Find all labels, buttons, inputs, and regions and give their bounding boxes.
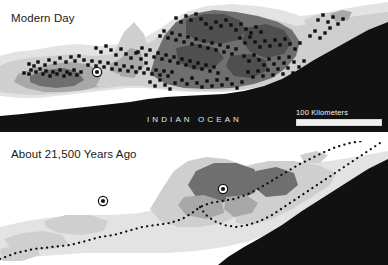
site-marker — [44, 69, 47, 72]
site-marker — [192, 65, 195, 68]
site-marker — [27, 72, 30, 75]
site-marker — [82, 58, 85, 61]
site-marker — [200, 85, 203, 88]
site-marker — [215, 78, 218, 81]
site-marker — [174, 16, 177, 19]
site-marker — [180, 57, 183, 60]
site-marker — [253, 40, 256, 43]
site-marker — [292, 60, 295, 63]
site-marker — [189, 18, 192, 21]
site-marker — [174, 38, 177, 41]
site-marker — [153, 84, 156, 87]
site-marker — [262, 63, 265, 66]
site-marker — [64, 60, 67, 63]
site-marker — [202, 39, 205, 42]
site-marker — [69, 55, 72, 58]
site-marker — [326, 20, 329, 23]
site-marker — [239, 22, 242, 25]
site-marker — [170, 31, 173, 34]
site-marker — [272, 62, 275, 65]
site-marker — [341, 17, 344, 20]
site-marker — [152, 55, 155, 58]
site-marker — [154, 68, 157, 71]
site-marker — [163, 83, 166, 86]
site-marker — [47, 58, 50, 61]
site-marker — [323, 31, 326, 34]
site-marker — [138, 66, 141, 69]
site-marker — [190, 42, 193, 45]
site-marker — [185, 82, 188, 85]
site-marker — [208, 69, 211, 72]
cave-marker-dot — [101, 199, 105, 203]
site-marker — [139, 57, 142, 60]
site-marker — [186, 35, 189, 38]
site-marker — [261, 74, 264, 77]
site-marker — [230, 82, 233, 85]
site-marker — [293, 47, 296, 50]
site-marker — [162, 69, 165, 72]
site-marker — [34, 70, 37, 73]
site-marker — [119, 47, 122, 50]
site-marker — [110, 67, 113, 70]
site-marker — [238, 36, 241, 39]
map-panel-ancient: About 21,500 Years Ago 100 Kilometers — [0, 141, 388, 265]
site-marker — [209, 26, 212, 29]
site-marker — [224, 18, 227, 21]
site-marker — [318, 36, 321, 39]
site-marker — [281, 72, 284, 75]
panel-title-modern: Modern Day — [11, 12, 75, 24]
site-marker — [166, 74, 169, 77]
site-marker — [316, 18, 319, 21]
site-marker — [234, 28, 237, 31]
site-marker — [32, 64, 35, 67]
site-marker — [150, 72, 153, 75]
site-marker — [102, 65, 105, 68]
site-marker — [106, 61, 109, 64]
site-marker — [254, 25, 257, 28]
site-marker — [72, 68, 75, 71]
site-marker — [301, 70, 304, 73]
site-marker — [178, 33, 181, 36]
site-marker — [263, 39, 266, 42]
site-marker — [184, 63, 187, 66]
site-marker — [158, 73, 161, 76]
site-marker — [216, 71, 219, 74]
site-marker — [162, 29, 165, 32]
site-marker — [210, 41, 213, 44]
site-marker — [168, 59, 171, 62]
site-marker — [184, 14, 187, 17]
site-marker — [58, 68, 61, 71]
site-marker — [176, 61, 179, 64]
site-marker — [235, 86, 238, 89]
site-marker — [234, 47, 237, 50]
site-marker — [156, 51, 159, 54]
site-marker — [240, 80, 243, 83]
cave-marker-group-modern — [92, 67, 101, 76]
site-marker — [214, 48, 217, 51]
site-marker — [43, 63, 46, 66]
site-marker — [199, 17, 202, 20]
site-marker — [230, 52, 233, 55]
site-marker — [205, 79, 208, 82]
site-marker — [65, 70, 68, 73]
site-marker — [328, 26, 331, 29]
site-marker — [126, 69, 129, 72]
site-marker — [158, 78, 161, 81]
site-marker — [140, 46, 143, 49]
site-marker — [27, 62, 30, 65]
site-marker — [242, 54, 245, 57]
site-marker — [170, 70, 173, 73]
site-marker — [214, 20, 217, 23]
site-marker — [298, 41, 301, 44]
site-marker — [53, 61, 56, 64]
site-marker — [276, 67, 279, 70]
site-marker — [200, 67, 203, 70]
site-marker — [142, 71, 145, 74]
site-marker — [244, 27, 247, 30]
site-marker — [144, 61, 147, 64]
site-marker — [129, 56, 132, 59]
site-marker — [306, 75, 309, 78]
site-marker — [268, 44, 271, 47]
site-marker — [283, 37, 286, 40]
site-marker — [278, 43, 281, 46]
